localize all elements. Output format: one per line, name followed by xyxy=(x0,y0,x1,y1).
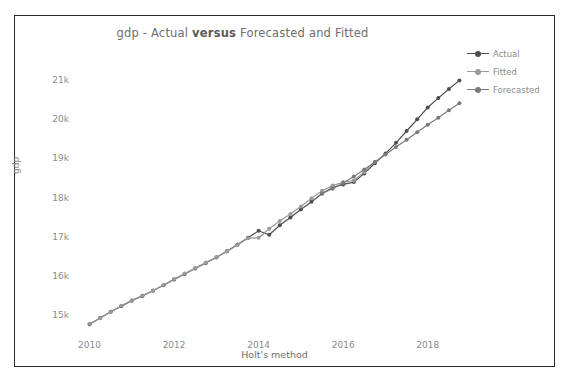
series-actual xyxy=(88,78,462,326)
y-tick-label: 15k xyxy=(29,310,69,320)
y-axis-title: gdp xyxy=(11,157,21,174)
legend-label: Fitted xyxy=(493,67,517,77)
legend-swatch-icon xyxy=(467,49,489,58)
data-point-marker xyxy=(394,141,398,145)
y-tick-label: 21k xyxy=(29,75,69,85)
data-point-marker xyxy=(310,196,314,200)
data-point-marker xyxy=(246,236,250,240)
data-point-marker xyxy=(384,153,388,157)
figure-frame: gdp - Actual versus Forecasted and Fitte… xyxy=(14,15,555,367)
x-axis-title: Holt's method xyxy=(79,349,470,360)
data-point-marker xyxy=(415,130,419,134)
data-point-marker xyxy=(436,96,440,100)
data-point-marker xyxy=(447,87,451,91)
data-point-marker xyxy=(352,175,356,179)
data-point-marker xyxy=(267,227,271,231)
data-point-marker xyxy=(162,283,166,287)
y-tick-label: 17k xyxy=(29,232,69,242)
data-point-marker xyxy=(447,108,451,112)
data-point-marker xyxy=(457,78,461,82)
data-point-marker xyxy=(288,215,292,219)
data-point-marker xyxy=(98,316,102,320)
data-point-marker xyxy=(278,223,282,227)
data-point-marker xyxy=(214,255,218,259)
data-point-marker xyxy=(278,219,282,223)
y-tick-label: 20k xyxy=(29,114,69,124)
legend-label: Actual xyxy=(493,49,520,59)
data-point-marker xyxy=(288,212,292,216)
y-tick-label: 16k xyxy=(29,271,69,281)
data-point-marker xyxy=(225,250,229,254)
data-point-marker xyxy=(394,145,398,149)
legend-swatch-icon xyxy=(467,85,489,94)
series-fitted xyxy=(88,160,377,326)
data-point-marker xyxy=(183,272,187,276)
data-point-marker xyxy=(257,229,261,233)
data-point-marker xyxy=(373,160,377,164)
x-tick-label: 2014 xyxy=(234,340,284,350)
data-point-marker xyxy=(299,204,303,208)
data-point-marker xyxy=(426,123,430,127)
legend-item: Fitted xyxy=(467,64,540,79)
data-point-marker xyxy=(204,261,208,265)
data-point-marker xyxy=(109,310,113,314)
x-tick-label: 2012 xyxy=(149,340,199,350)
data-point-marker xyxy=(362,168,366,172)
data-point-marker xyxy=(320,192,324,196)
data-point-marker xyxy=(457,101,461,105)
data-point-marker xyxy=(426,106,430,110)
data-point-marker xyxy=(331,187,335,191)
data-point-marker xyxy=(415,117,419,121)
data-point-marker xyxy=(257,236,261,240)
data-point-marker xyxy=(130,298,134,302)
chart-legend: ActualFittedForecasted xyxy=(467,46,540,100)
screenshot-root: gdp - Actual versus Forecasted and Fitte… xyxy=(0,0,570,383)
data-point-marker xyxy=(236,243,240,247)
data-point-marker xyxy=(193,266,197,270)
data-point-marker xyxy=(267,233,271,237)
data-point-marker xyxy=(405,138,409,142)
data-point-marker xyxy=(341,181,345,185)
data-point-marker xyxy=(436,116,440,120)
x-tick-label: 2016 xyxy=(318,340,368,350)
y-tick-label: 18k xyxy=(29,193,69,203)
data-point-marker xyxy=(151,289,155,293)
legend-label: Forecasted xyxy=(493,85,540,95)
data-point-marker xyxy=(352,179,356,183)
data-point-marker xyxy=(119,304,123,308)
data-point-marker xyxy=(310,200,314,204)
x-tick-label: 2010 xyxy=(65,340,115,350)
legend-item: Actual xyxy=(467,46,540,61)
legend-swatch-icon xyxy=(467,67,489,76)
data-point-marker xyxy=(172,277,176,281)
x-tick-label: 2018 xyxy=(403,340,453,350)
legend-item: Forecasted xyxy=(467,82,540,97)
data-point-marker xyxy=(140,294,144,298)
data-point-marker xyxy=(88,322,92,326)
y-tick-label: 19k xyxy=(29,153,69,163)
data-point-marker xyxy=(405,129,409,133)
series-line xyxy=(90,80,460,324)
